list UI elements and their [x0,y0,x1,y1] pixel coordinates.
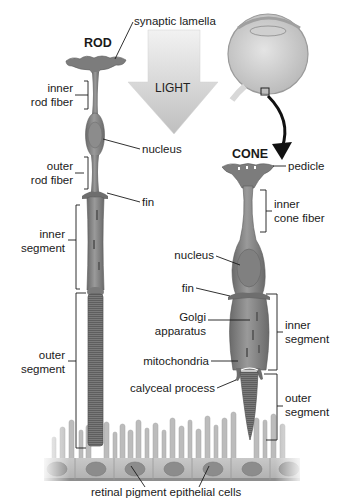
pedicle-label: pedicle [288,160,324,173]
outer-rod-fiber-label-1: outer [47,160,73,173]
outer-rod-fiber-label-2: rod fiber [31,174,73,187]
inner-cone-fiber-label-2: cone fiber [274,212,325,225]
golgi-label-2: apparatus [155,325,206,338]
rod-inner-segment-label-1: inner [39,228,65,241]
rod-title: ROD [84,36,112,50]
rod-inner-segment-label-2: segment [21,242,65,255]
inner-rod-fiber-label-2: rod fiber [31,96,73,109]
rod-outer-segment-label-2: segment [21,363,65,376]
cone-outer-segment-label-1: outer [285,392,311,405]
mitochondria-label: mitochondria [143,355,209,368]
rod-cell [66,56,126,446]
retinal-pigment-epithelial-cells-label: retinal pigment epithelial cells [91,486,241,499]
rod-nucleus-label: nucleus [142,143,182,156]
cone-outer-segment-label-2: segment [285,406,329,419]
inner-rod-fiber-label-1: inner [47,82,73,95]
retinal-pigment-epithelium [40,410,305,485]
synaptic-lamella-label: synaptic lamella [134,15,216,28]
calyceal-process-label: calyceal process [130,382,215,395]
cone-title: CONE [232,147,268,161]
cone-inner-segment-label-2: segment [285,333,329,346]
photoreceptor-diagram: ROD CONE LIGHT synaptic lamella inner ro… [0,0,343,499]
eye-illustration [228,14,308,160]
rod-fin-label: fin [142,196,154,209]
inner-cone-fiber-label-1: inner [274,198,300,211]
light-label: LIGHT [155,81,190,95]
cone-fin-label: fin [182,282,194,295]
cone-nucleus-label: nucleus [174,249,214,262]
rod-outer-segment-label-1: outer [39,349,65,362]
cone-inner-segment-label-1: inner [285,319,311,332]
golgi-label-1: Golgi [179,311,206,324]
